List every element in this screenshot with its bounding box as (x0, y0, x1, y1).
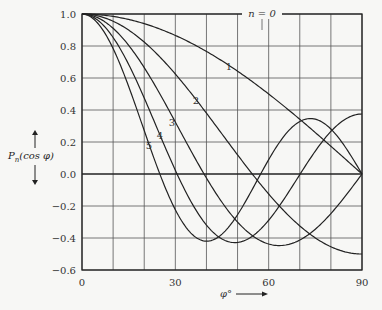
y-tick-label: 0.8 (60, 41, 76, 52)
y-tick-label: −0.2 (52, 201, 76, 212)
arrow-right-icon (262, 292, 268, 297)
curve-n2 (82, 14, 362, 254)
arrow-up-icon (32, 130, 38, 135)
curve-label-n0: n = 0 (248, 8, 276, 19)
y-tick-label: −0.6 (52, 265, 76, 276)
curve-label-n3: 3 (169, 117, 175, 128)
curve-n4 (82, 14, 362, 243)
y-tick-label: −0.4 (52, 233, 76, 244)
curve-label-n4: 4 (157, 130, 163, 141)
curve-label-n5: 5 (146, 140, 152, 151)
x-tick-label: 90 (356, 277, 369, 288)
y-tick-label: 0.0 (60, 169, 76, 180)
y-tick-label: 0.6 (60, 73, 76, 84)
x-axis-label: φ° (220, 288, 232, 299)
curve-n3 (82, 14, 362, 246)
x-tick-label: 60 (262, 277, 275, 288)
arrow-down-icon (32, 180, 38, 185)
curve-label-n2: 2 (193, 95, 199, 106)
y-tick-label: 0.4 (60, 105, 76, 116)
y-tick-label: 1.0 (60, 9, 76, 20)
y-axis-label-rest: (cos φ) (19, 150, 54, 161)
y-tick-label: 0.2 (60, 137, 76, 148)
x-tick-label: 30 (169, 277, 182, 288)
y-axis-label-main: P (8, 150, 15, 161)
curve-n1 (82, 14, 362, 174)
y-axis-label: Pn(cos φ) (8, 150, 54, 164)
curve-n5 (82, 14, 362, 241)
legendre-chart: 1.00.80.60.40.20.0−0.2−0.4−0.60306090n =… (0, 0, 382, 310)
curve-label-n1: 1 (226, 61, 232, 72)
x-tick-label: 0 (79, 277, 85, 288)
